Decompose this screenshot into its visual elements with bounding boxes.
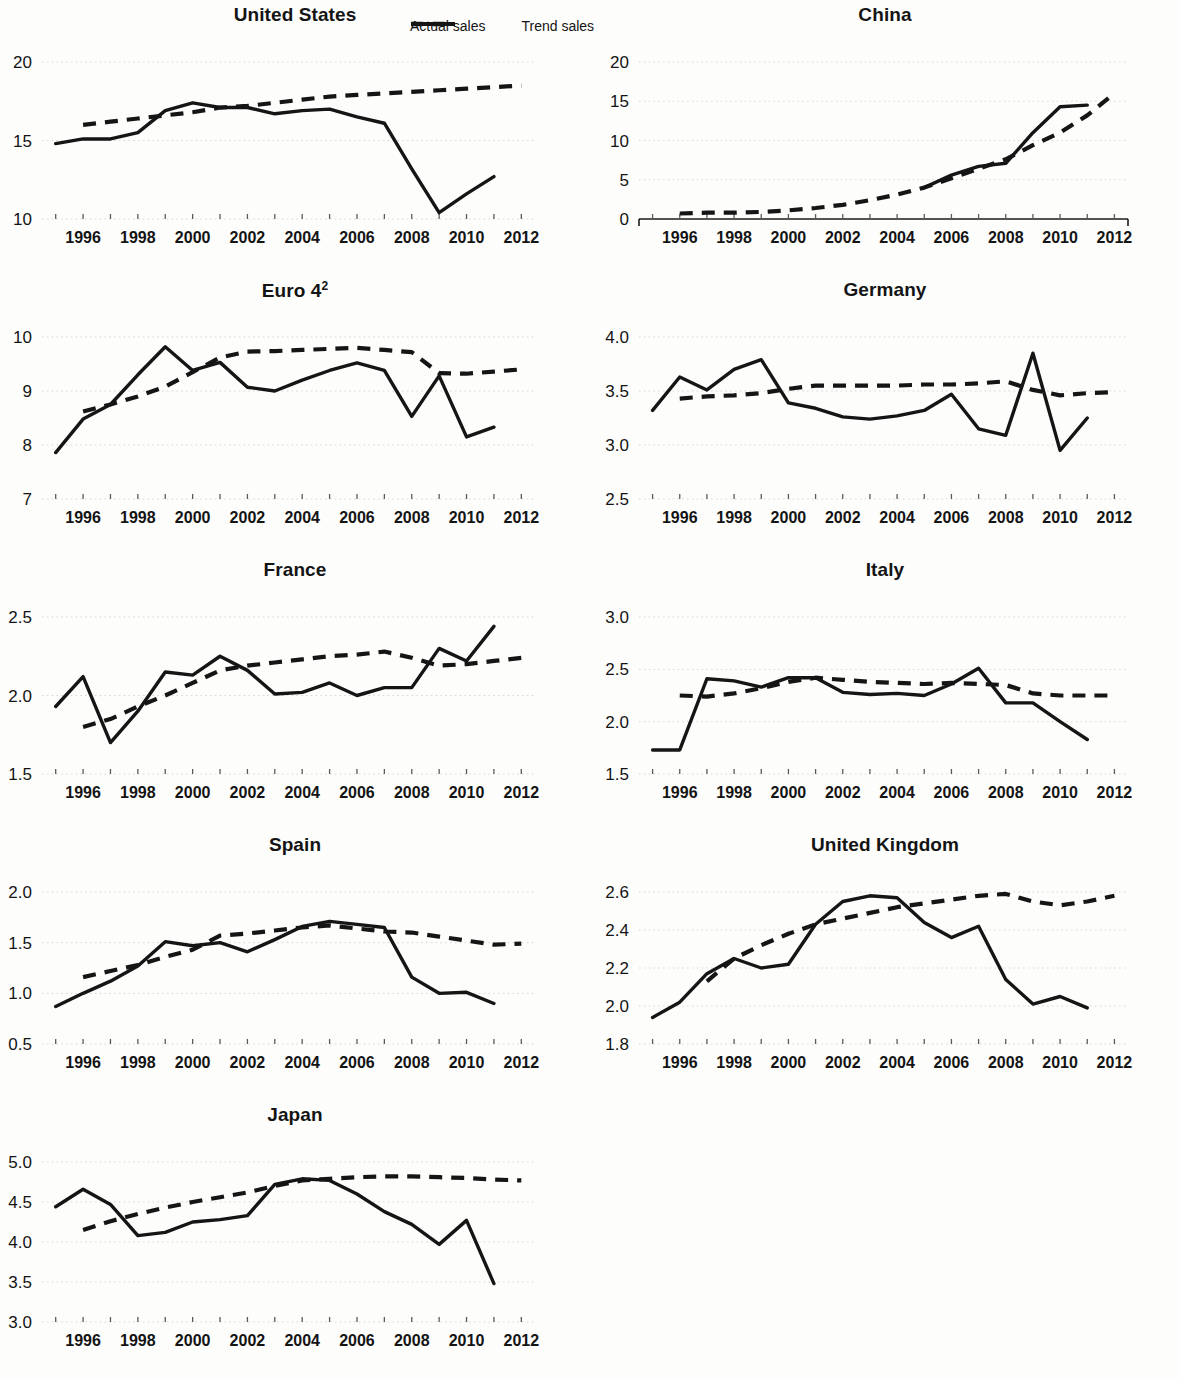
panel-cell-china: China05101520199619982000200220042006200… bbox=[590, 0, 1180, 275]
actual-sales-line bbox=[924, 105, 1087, 187]
x-axis-tick-label: 2012 bbox=[504, 229, 540, 246]
x-axis-tick-label: 2002 bbox=[230, 1332, 266, 1349]
y-axis-tick-label: 2.2 bbox=[605, 959, 629, 978]
panel-cell-italy: Italy1.52.02.53.019961998200020022004200… bbox=[590, 555, 1180, 830]
x-axis-tick-label: 1998 bbox=[120, 784, 156, 801]
trend-sales-line bbox=[83, 86, 521, 125]
chart-panel: United States101520199619982000200220042… bbox=[0, 0, 590, 275]
x-axis-tick-label: 2006 bbox=[934, 229, 970, 246]
trend-sales-line bbox=[83, 1176, 521, 1230]
x-axis-tick-label: 2012 bbox=[504, 1054, 540, 1071]
x-axis-tick-label: 1996 bbox=[662, 229, 698, 246]
panel-cell-united-states: United States101520199619982000200220042… bbox=[0, 0, 590, 275]
x-axis-tick-label: 1996 bbox=[662, 509, 698, 526]
x-axis-tick-label: 2000 bbox=[771, 509, 807, 526]
y-axis-tick-label: 1.5 bbox=[8, 765, 32, 784]
chart-svg: 1.82.02.22.42.61996199820002002200420062… bbox=[590, 830, 1180, 1100]
x-axis-tick-label: 2002 bbox=[825, 509, 861, 526]
chart-panel: Euro 42789101996199820002002200420062008… bbox=[0, 275, 590, 555]
x-axis-tick-label: 2008 bbox=[988, 784, 1024, 801]
chart-svg: 0.51.01.52.01996199820002002200420062008… bbox=[0, 830, 590, 1100]
x-axis-tick-label: 1998 bbox=[120, 509, 156, 526]
y-axis-tick-label: 3.0 bbox=[8, 1313, 32, 1332]
panel-cell-japan: Japan3.03.54.04.55.019961998200020022004… bbox=[0, 1100, 590, 1378]
chart-svg: 7891019961998200020022004200620082010201… bbox=[0, 275, 590, 555]
x-axis-tick-label: 2012 bbox=[504, 509, 540, 526]
x-axis-tick-label: 2010 bbox=[1042, 229, 1078, 246]
x-axis-tick-label: 2008 bbox=[988, 509, 1024, 526]
y-axis-tick-label: 1.5 bbox=[8, 934, 32, 953]
chart-panel: Italy1.52.02.53.019961998200020022004200… bbox=[590, 555, 1180, 830]
x-axis-tick-label: 2008 bbox=[394, 1332, 430, 1349]
x-axis-tick-label: 2002 bbox=[230, 509, 266, 526]
x-axis-tick-label: 2012 bbox=[1097, 229, 1133, 246]
x-axis-tick-label: 2004 bbox=[284, 1332, 320, 1349]
y-axis-tick-label: 2.0 bbox=[8, 883, 32, 902]
dashed-line-swatch bbox=[410, 18, 456, 30]
panel-cell-euro-4: Euro 42789101996199820002002200420062008… bbox=[0, 275, 590, 555]
x-axis-tick-label: 2012 bbox=[1097, 784, 1133, 801]
trend-sales-line bbox=[83, 925, 521, 977]
x-axis-tick-label: 2000 bbox=[175, 1054, 211, 1071]
y-axis-tick-label: 1.8 bbox=[605, 1035, 629, 1054]
actual-sales-line bbox=[56, 626, 494, 742]
x-axis-tick-label: 2012 bbox=[504, 784, 540, 801]
x-axis-tick-label: 1998 bbox=[716, 1054, 752, 1071]
y-axis-tick-label: 5 bbox=[620, 171, 629, 190]
y-axis-tick-label: 2.5 bbox=[8, 608, 32, 627]
y-axis-tick-label: 20 bbox=[610, 53, 629, 72]
chart-panel: China05101520199619982000200220042006200… bbox=[590, 0, 1180, 275]
x-axis-tick-label: 2000 bbox=[771, 1054, 807, 1071]
trend-sales-line bbox=[83, 652, 521, 727]
chart-panel: Germany2.53.03.54.0199619982000200220042… bbox=[590, 275, 1180, 555]
y-axis-tick-label: 0.5 bbox=[8, 1035, 32, 1054]
legend-item-trend-sales: Trend sales bbox=[521, 18, 594, 34]
y-axis-tick-label: 2.5 bbox=[605, 660, 629, 679]
x-axis-tick-label: 2002 bbox=[825, 784, 861, 801]
x-axis-tick-label: 2006 bbox=[339, 229, 375, 246]
x-axis-tick-label: 2000 bbox=[771, 229, 807, 246]
y-axis-tick-label: 15 bbox=[13, 132, 32, 151]
y-axis-tick-label: 3.0 bbox=[605, 608, 629, 627]
y-axis-tick-label: 3.0 bbox=[605, 436, 629, 455]
x-axis-tick-label: 1998 bbox=[120, 1332, 156, 1349]
trend-sales-line bbox=[680, 93, 1115, 213]
x-axis-tick-label: 2012 bbox=[504, 1332, 540, 1349]
actual-sales-line bbox=[653, 353, 1088, 450]
x-axis-tick-label: 2010 bbox=[449, 509, 485, 526]
x-axis-tick-label: 2012 bbox=[1097, 509, 1133, 526]
x-axis-tick-label: 2004 bbox=[284, 1054, 320, 1071]
actual-sales-line bbox=[56, 103, 494, 213]
x-axis-tick-label: 1996 bbox=[65, 784, 101, 801]
x-axis-tick-label: 2004 bbox=[879, 509, 915, 526]
chart-svg: 0510152019961998200020022004200620082010… bbox=[590, 0, 1180, 275]
actual-sales-line bbox=[653, 668, 1088, 750]
chart-svg: 2.53.03.54.01996199820002002200420062008… bbox=[590, 275, 1180, 555]
x-axis-tick-label: 2002 bbox=[230, 1054, 266, 1071]
x-axis-tick-label: 1996 bbox=[65, 509, 101, 526]
x-axis-tick-label: 2006 bbox=[339, 784, 375, 801]
x-axis-tick-label: 1996 bbox=[662, 784, 698, 801]
chart-svg: 3.03.54.04.55.01996199820002002200420062… bbox=[0, 1100, 590, 1378]
x-axis-tick-label: 2008 bbox=[988, 1054, 1024, 1071]
x-axis-tick-label: 2010 bbox=[1042, 1054, 1078, 1071]
x-axis-tick-label: 2006 bbox=[339, 1054, 375, 1071]
y-axis-tick-label: 4.0 bbox=[8, 1233, 32, 1252]
actual-sales-line bbox=[56, 1179, 494, 1284]
x-axis-tick-label: 1996 bbox=[662, 1054, 698, 1071]
x-axis-tick-label: 2000 bbox=[175, 229, 211, 246]
x-axis-tick-label: 2010 bbox=[449, 1054, 485, 1071]
chart-legend: Actual sales Trend sales bbox=[410, 18, 594, 34]
x-axis-tick-label: 2002 bbox=[825, 229, 861, 246]
x-axis-tick-label: 2006 bbox=[339, 1332, 375, 1349]
chart-panel: United Kingdom1.82.02.22.42.619961998200… bbox=[590, 830, 1180, 1100]
y-axis-tick-label: 5.0 bbox=[8, 1153, 32, 1172]
x-axis-tick-label: 2002 bbox=[825, 1054, 861, 1071]
chart-svg: 1.52.02.51996199820002002200420062008201… bbox=[0, 555, 590, 830]
panel-cell-spain: Spain0.51.01.52.019961998200020022004200… bbox=[0, 830, 590, 1100]
panel-cell-france: France1.52.02.51996199820002002200420062… bbox=[0, 555, 590, 830]
y-axis-tick-label: 7 bbox=[23, 490, 32, 509]
x-axis-tick-label: 2000 bbox=[771, 784, 807, 801]
trend-sales-line bbox=[680, 381, 1115, 398]
y-axis-tick-label: 9 bbox=[23, 382, 32, 401]
